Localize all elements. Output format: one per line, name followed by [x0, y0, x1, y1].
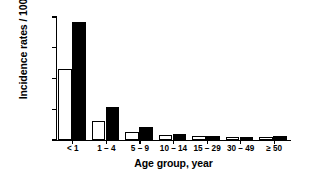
bar-open [192, 136, 206, 140]
bar-group [190, 17, 224, 140]
bar-chart-figure: Incidence rates / 100,000 01,0002,0003,0… [0, 0, 309, 178]
bar-group [257, 17, 291, 140]
bar-solid [173, 134, 187, 140]
bar-group [123, 17, 157, 140]
bar-group [56, 17, 90, 140]
bar-solid [206, 136, 220, 140]
bar-open [226, 137, 240, 140]
bar-open [125, 132, 139, 140]
bar-open [159, 135, 173, 140]
bar-solid [273, 136, 287, 140]
bar-solid [139, 127, 153, 140]
bar-solid [240, 137, 254, 140]
y-axis-title: Incidence rates / 100,000 [14, 0, 32, 104]
x-tick-label: ≥ 50 [248, 144, 300, 153]
bar-group [90, 17, 124, 140]
bar-group [224, 17, 258, 140]
x-axis-title: Age group, year [56, 157, 291, 169]
plot-area [56, 17, 291, 140]
bar-solid [106, 107, 120, 140]
bar-open [58, 69, 72, 140]
bar-solid [72, 22, 86, 140]
bar-group [157, 17, 191, 140]
bar-open [259, 137, 273, 140]
bar-open [92, 121, 106, 140]
